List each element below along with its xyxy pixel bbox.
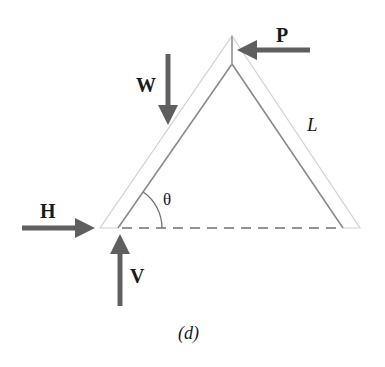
label-p: P	[276, 24, 288, 46]
label-l: L	[306, 114, 318, 135]
label-theta: θ	[163, 190, 171, 209]
label-w: W	[136, 74, 156, 96]
free-body-diagram: P W H V L θ (d)	[0, 0, 385, 367]
label-h: H	[40, 200, 56, 222]
right-member	[232, 36, 360, 228]
theta-arc	[143, 192, 162, 228]
label-v: V	[130, 265, 145, 287]
caption: (d)	[178, 323, 199, 344]
